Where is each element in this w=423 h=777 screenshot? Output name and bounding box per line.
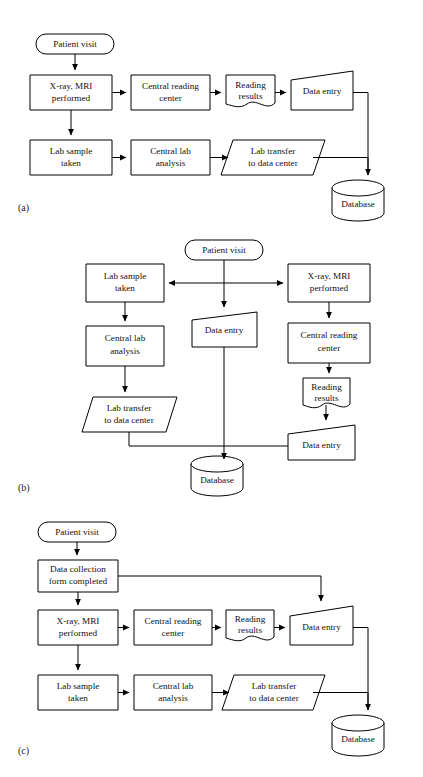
node-database: Database [332,715,384,756]
node-patient-visit: Patient visit [185,240,263,260]
node-label-line2: results [238,625,262,635]
node-data-entry: Data entry [290,606,353,645]
node-label: Database [341,199,375,209]
node-label: Data entry [302,440,341,450]
node-label-line2: performed [310,283,349,293]
node-label-line2: to data center [249,693,298,703]
node-label-line1: Lab sample [57,681,100,691]
node-data-entry-right: Data entry [288,425,355,460]
node-lab-sample-taken: Lab sample taken [38,675,118,710]
node-data-collection-form: Data collection form completed [38,560,118,592]
panel-caption-c: (c) [18,745,29,756]
node-label-line2: taken [61,158,81,168]
node-label: Data entry [303,86,342,96]
node-label-line1: Lab transfer [252,681,297,691]
node-xray-mri: X-ray, MRI performed [288,264,370,302]
edge-transfer-trunk [129,432,288,446]
node-label: Patient visit [55,527,99,537]
node-label-line2: analysis [156,158,186,168]
node-label-line2: center [159,93,181,103]
node-label-line2: results [315,393,339,403]
node-xray-mri: X-ray, MRI performed [38,610,118,645]
node-reading-results: Reading results [226,610,274,641]
node-label-line2: analysis [110,346,140,356]
node-label-line1: Reading [311,382,342,392]
node-central-reading-center: Central reading center [131,75,210,110]
figure-page: Patient visit X-ray, MRI performed Centr… [0,0,423,777]
node-lab-transfer: Lab transfer to data center [221,140,325,175]
node-data-entry: Data entry [291,71,353,110]
flowchart-panel-a: Patient visit X-ray, MRI performed Centr… [0,28,423,213]
node-label-line2: to data center [104,415,153,425]
node-central-lab-analysis: Central lab analysis [131,140,210,175]
node-label-line1: Reading [235,80,266,90]
node-label-line2: results [239,91,263,101]
node-label-line2: analysis [158,693,188,703]
node-lab-transfer: Lab transfer to data center [222,675,325,710]
node-lab-sample-taken: Lab sample taken [86,264,164,302]
node-central-reading-center: Central reading center [288,323,370,363]
node-label-line1: Central lab [105,333,146,343]
node-label: Data entry [302,622,341,632]
node-label: Patient visit [53,39,97,49]
node-central-lab-analysis: Central lab analysis [86,326,164,366]
node-label-line1: X-ray, MRI [50,81,93,91]
node-label-line1: X-ray, MRI [57,616,100,626]
node-label-line2: performed [52,93,91,103]
node-lab-sample-taken: Lab sample taken [30,140,112,175]
edge-dataentry-down [353,93,368,176]
node-label: Database [341,734,375,744]
page-top-bleed-text [18,0,408,4]
node-reading-results: Reading results [303,378,350,408]
node-database: Database [191,456,243,496]
node-label-line2: center [162,628,184,638]
node-label-line2: to data center [248,158,297,168]
node-database: Database [332,180,384,221]
node-label-line1: Lab transfer [251,146,296,156]
node-label-line2: taken [115,283,135,293]
node-label-line1: Central lab [153,681,194,691]
node-label-line1: X-ray, MRI [308,271,351,281]
node-label-line2: performed [59,628,98,638]
node-label-line1: Data collection [50,564,106,574]
node-label: Database [200,475,234,485]
node-label: Patient visit [202,245,246,255]
node-reading-results: Reading results [226,75,275,107]
node-central-reading-center: Central reading center [134,610,212,645]
panel-caption-b: (b) [18,482,30,493]
node-xray-mri: X-ray, MRI performed [30,75,112,110]
node-lab-transfer: Lab transfer to data center [82,397,177,432]
panel-caption-a: (a) [18,202,29,213]
node-data-entry-middle: Data entry [192,312,257,347]
node-label-line1: Lab sample [104,271,147,281]
node-label-line2: taken [68,693,88,703]
node-label-line1: Central reading [301,330,358,340]
flowchart-panel-b: Patient visit Lab sample taken X-ray, MR… [0,232,423,477]
node-patient-visit: Patient visit [38,522,116,542]
node-label-line2: form completed [49,576,108,586]
node-label-line1: Central reading [142,81,199,91]
flowchart-panel-c: Patient visit Data collection form compl… [0,508,423,748]
edge-form-to-dataentry [118,576,321,601]
node-central-lab-analysis: Central lab analysis [134,675,212,710]
node-label: Data entry [205,325,244,335]
node-label-line2: center [318,343,340,353]
node-label-line1: Central reading [145,616,202,626]
node-label-line1: Lab transfer [107,403,152,413]
node-label-line1: Lab sample [50,146,93,156]
edge-dataentry-down [353,628,368,711]
node-patient-visit: Patient visit [36,34,114,54]
node-label-line1: Reading [235,614,266,624]
node-label-line1: Central lab [150,146,191,156]
